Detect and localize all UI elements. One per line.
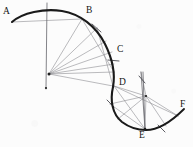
ray-left-7 [49,74,113,86]
ray-left-1 [49,19,82,74]
arc-e-to-f [146,109,184,130]
center-point-right [145,95,147,97]
chord-d-e [114,86,145,129]
geometric-figure-canvas: A B C D E F [0,0,193,147]
label-point-e: E [139,131,145,141]
ray-right-6 [146,96,178,116]
label-point-d: D [119,78,126,88]
ray-left-2 [49,28,97,74]
ray-right-3 [118,96,146,119]
construction-drawing [0,0,193,147]
tick-2 [108,60,119,61]
label-point-a: A [3,7,10,17]
center-point-left [48,73,51,76]
label-point-c: C [117,45,124,55]
ray-right-1 [114,86,146,96]
chords-left [12,19,114,86]
label-point-f: F [180,100,185,110]
ray-right-5 [146,96,166,126]
axis-foot-left [45,87,47,89]
arc-a-to-d [12,10,114,87]
vertical-axis-left [46,3,47,89]
ray-right-2 [110,96,146,104]
chord-b-mid [82,19,114,72]
ray-left-3 [49,41,106,74]
label-point-b: B [86,6,93,16]
construction-rays-left [49,19,114,86]
ray-left-4 [49,52,112,74]
